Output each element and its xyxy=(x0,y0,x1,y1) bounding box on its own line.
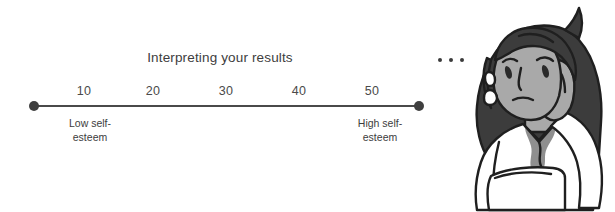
scale-tick-label-20: 20 xyxy=(133,84,173,98)
pensive-woman-svg xyxy=(447,2,615,212)
scale-tick-label-40: 40 xyxy=(279,84,319,98)
scale-tick-label-50: 50 xyxy=(352,84,392,98)
scale-endpoint-right-dot xyxy=(414,101,424,111)
interpreting-results-figure: Interpreting your results 10 20 30 40 50… xyxy=(0,0,615,212)
earring-drop-shape xyxy=(484,90,497,105)
high-self-esteem-label-line1: High self- xyxy=(335,116,425,130)
scale-tick-label-30: 30 xyxy=(206,84,246,98)
page-title: Interpreting your results xyxy=(0,50,440,65)
high-self-esteem-label-line2: esteem xyxy=(335,130,425,144)
thinking-dot-1-icon xyxy=(438,58,442,62)
low-self-esteem-label-line2: esteem xyxy=(45,130,135,144)
low-self-esteem-label-line1: Low self- xyxy=(45,116,135,130)
scale-endpoint-left-dot xyxy=(29,101,39,111)
earring-shape xyxy=(485,72,495,86)
scale-axis-line xyxy=(34,105,419,107)
low-self-esteem-label: Low self- esteem xyxy=(45,116,135,144)
scale-tick-label-10: 10 xyxy=(64,84,104,98)
high-self-esteem-label: High self- esteem xyxy=(335,116,425,144)
forearm-shape xyxy=(488,167,565,210)
pensive-woman-illustration xyxy=(447,2,615,212)
